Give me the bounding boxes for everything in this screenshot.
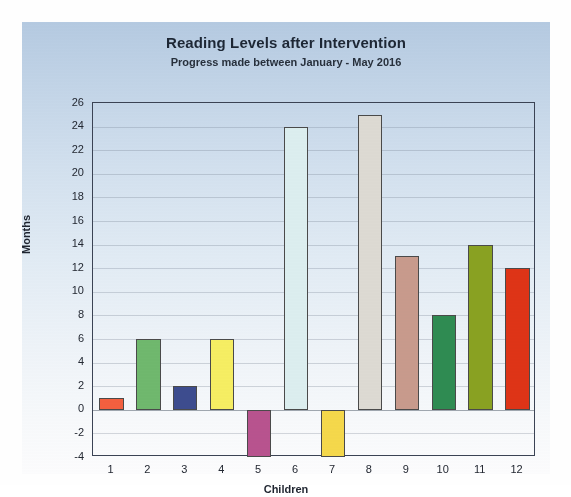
y-axis-tick-label: 8: [56, 309, 84, 320]
bar-child-12: [505, 268, 529, 410]
y-axis-tick-label: 24: [56, 120, 84, 131]
x-axis-tick-label: 6: [280, 464, 310, 475]
gridline: [93, 221, 534, 222]
x-axis-tick-label: 12: [502, 464, 532, 475]
y-axis-tick-label: 6: [56, 333, 84, 344]
y-axis-tick-label: 10: [56, 285, 84, 296]
x-axis-tick-label: 3: [169, 464, 199, 475]
x-axis-tick-label: 5: [243, 464, 273, 475]
bar-child-3: [173, 386, 197, 410]
zero-line: [93, 410, 534, 411]
x-axis-tick-label: 2: [132, 464, 162, 475]
y-axis-tick-label: 22: [56, 144, 84, 155]
x-axis-tick-label: 1: [96, 464, 126, 475]
gridline: [93, 150, 534, 151]
page-title: Reading Levels after Intervention: [22, 34, 550, 52]
bar-child-11: [468, 245, 492, 410]
gridline: [93, 127, 534, 128]
gridline: [93, 433, 534, 434]
chart-title-block: Reading Levels after Intervention Progre…: [22, 34, 550, 70]
gridline: [93, 174, 534, 175]
y-axis-tick-label: 20: [56, 167, 84, 178]
chart-panel: Reading Levels after Intervention Progre…: [22, 22, 550, 474]
bar-child-5: [247, 410, 271, 457]
chart-subtitle: Progress made between January - May 2016: [22, 54, 550, 70]
y-axis-tick-label: 0: [56, 403, 84, 414]
bar-child-8: [358, 115, 382, 410]
gridline: [93, 197, 534, 198]
bar-child-4: [210, 339, 234, 410]
y-axis-tick-label: -2: [56, 427, 84, 438]
bar-child-2: [136, 339, 160, 410]
x-axis-tick-label: 4: [206, 464, 236, 475]
y-axis-tick-label: 26: [56, 97, 84, 108]
y-axis-tick-label: -4: [56, 451, 84, 462]
y-axis-tick-label: 14: [56, 238, 84, 249]
x-axis-tick-label: 8: [354, 464, 384, 475]
bar-child-1: [99, 398, 123, 410]
x-axis-title: Children: [22, 483, 550, 495]
x-axis-tick-label: 7: [317, 464, 347, 475]
bar-child-9: [395, 256, 419, 409]
x-axis-tick-label: 9: [391, 464, 421, 475]
plot-area: [92, 102, 535, 456]
y-axis-tick-label: 18: [56, 191, 84, 202]
y-axis-tick-label: 2: [56, 380, 84, 391]
y-axis-title: Months: [20, 215, 32, 254]
bar-child-6: [284, 127, 308, 410]
x-axis-tick-label: 11: [465, 464, 495, 475]
y-axis-tick-label: 16: [56, 215, 84, 226]
bar-child-7: [321, 410, 345, 457]
y-axis-tick-label: 4: [56, 356, 84, 367]
x-axis-tick-label: 10: [428, 464, 458, 475]
bar-child-10: [432, 315, 456, 409]
y-axis-tick-label: 12: [56, 262, 84, 273]
